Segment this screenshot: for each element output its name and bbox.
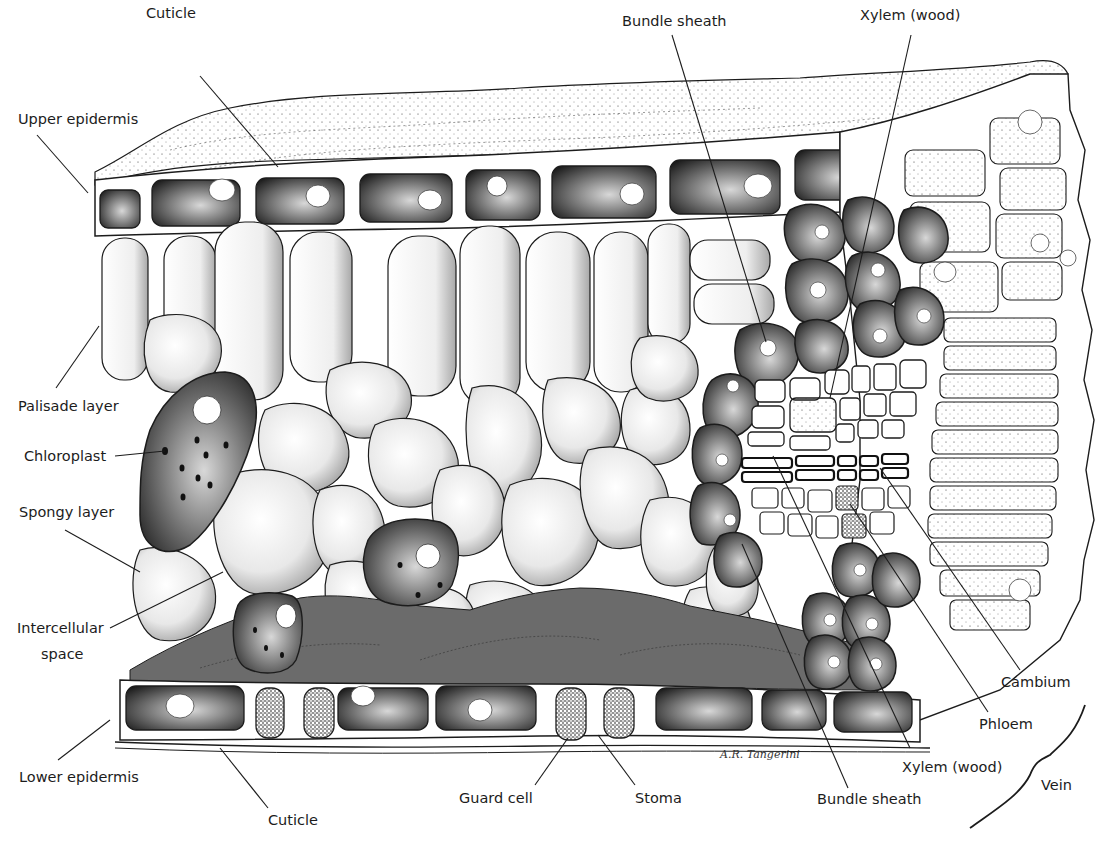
label-vein: Vein bbox=[1041, 778, 1072, 793]
label-cuticle-top: Cuticle bbox=[146, 6, 196, 21]
diagram-canvas: A.R. Tangerini bbox=[0, 0, 1107, 847]
label-cuticle-bottom: Cuticle bbox=[268, 813, 318, 828]
label-bundle-sheath-bottom: Bundle sheath bbox=[817, 792, 922, 807]
label-palisade-layer: Palisade layer bbox=[18, 399, 119, 414]
label-spongy-layer: Spongy layer bbox=[19, 505, 114, 520]
cambium-band bbox=[742, 454, 908, 482]
label-intercellular-space: Intercellular bbox=[17, 621, 104, 636]
label-bundle-sheath-top: Bundle sheath bbox=[622, 14, 727, 29]
lower-epidermis-layer bbox=[115, 680, 930, 753]
label-chloroplast: Chloroplast bbox=[24, 449, 106, 464]
label-guard-cell: Guard cell bbox=[459, 791, 533, 806]
label-xylem-top: Xylem (wood) bbox=[860, 8, 960, 23]
label-xylem-bottom: Xylem (wood) bbox=[902, 760, 1002, 775]
label-stoma: Stoma bbox=[635, 791, 682, 806]
label-cambium: Cambium bbox=[1001, 675, 1071, 690]
label-lower-epidermis: Lower epidermis bbox=[19, 770, 139, 785]
chloroplast-cell-small bbox=[233, 593, 302, 673]
label-intercellular-space-2: space bbox=[41, 647, 84, 662]
leaf-cross-section-diagram: A.R. Tangerini Cuticle Upper epidermis P… bbox=[0, 0, 1107, 847]
artist-signature: A.R. Tangerini bbox=[719, 748, 800, 761]
label-phloem: Phloem bbox=[979, 717, 1033, 732]
label-upper-epidermis: Upper epidermis bbox=[18, 112, 138, 127]
chloroplast-cell-mid bbox=[363, 519, 458, 606]
